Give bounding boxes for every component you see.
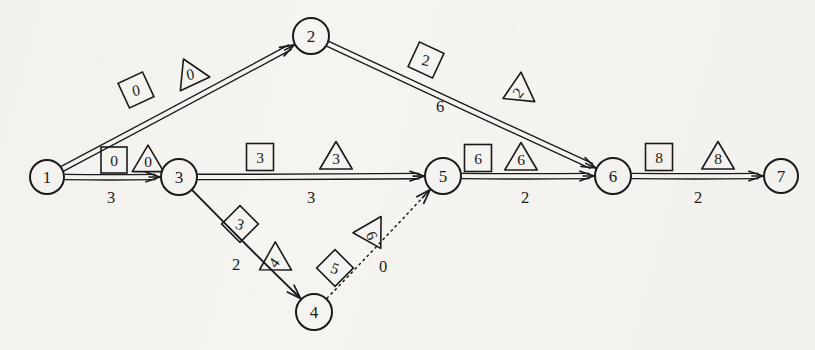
- node-1[interactable]: 1: [30, 160, 64, 194]
- node-6[interactable]: 6: [595, 158, 631, 194]
- label-value-wrap: 6: [517, 151, 525, 168]
- node-label: 1: [43, 168, 52, 187]
- label-value-wrap: 2: [421, 51, 432, 69]
- label-value-wrap: 8: [655, 149, 663, 166]
- label-square-5: 5: [317, 250, 354, 287]
- edge-weight-6-7: 2: [694, 188, 702, 207]
- edge-rail-b: [198, 179, 419, 180]
- label-value: 0: [110, 152, 118, 169]
- edge-3-4: [192, 190, 300, 298]
- network-svg: 363202200002233345666881234567: [0, 0, 815, 350]
- label-triangle-0: 0: [132, 145, 163, 172]
- label-value: 3: [332, 150, 340, 167]
- label-value-wrap: 3: [332, 150, 340, 167]
- label-value: 4: [265, 254, 283, 270]
- edge-weight-1-3: 3: [107, 188, 115, 207]
- label-value: 3: [233, 215, 246, 234]
- label-value: 0: [131, 81, 142, 99]
- node-label: 4: [310, 303, 319, 322]
- label-value-wrap: 2: [509, 84, 527, 101]
- label-value-wrap: 0: [110, 152, 118, 169]
- edge-rail-a: [329, 42, 592, 164]
- edge-rail-b: [327, 46, 590, 168]
- node-label: 2: [307, 27, 316, 46]
- label-value: 3: [256, 149, 264, 166]
- label-value-wrap: 8: [714, 150, 722, 167]
- edge-4-5: [327, 190, 430, 298]
- label-triangle-2: 2: [496, 72, 535, 113]
- label-value-wrap: 4: [265, 254, 283, 270]
- label-square-0: 0: [118, 72, 154, 108]
- label-value: 8: [655, 149, 663, 166]
- label-triangle-8: 8: [702, 142, 734, 169]
- edge-weight-2-6: 6: [436, 97, 444, 116]
- node-label: 5: [439, 167, 448, 186]
- edge-rail-a: [198, 173, 419, 174]
- label-value: 6: [363, 229, 382, 243]
- label-value: 6: [517, 151, 525, 168]
- network-diagram-canvas: 363202200002233345666881234567: [0, 0, 815, 350]
- label-value: 0: [144, 153, 152, 170]
- label-value-wrap: 3: [256, 149, 264, 166]
- node-5[interactable]: 5: [425, 158, 461, 194]
- label-value: 2: [509, 84, 527, 101]
- label-value: 8: [714, 150, 722, 167]
- label-value-wrap: 3: [233, 215, 246, 234]
- label-value: 0: [185, 65, 196, 83]
- node-7[interactable]: 7: [764, 159, 798, 193]
- edge-weight-3-5: 3: [307, 188, 315, 207]
- label-value: 5: [328, 259, 341, 278]
- edge-3-5: [198, 171, 424, 181]
- label-triangle-0: 0: [169, 52, 210, 91]
- label-value: 6: [474, 150, 482, 167]
- label-value-wrap: 6: [474, 150, 482, 167]
- edge-weight-5-6: 2: [521, 188, 529, 207]
- label-triangle-6: 6: [353, 216, 395, 256]
- edge-5-6: [462, 171, 594, 181]
- edge-2-6: [327, 42, 596, 169]
- node-2[interactable]: 2: [293, 18, 329, 54]
- label-value-wrap: 6: [363, 229, 382, 243]
- label-value-wrap: 0: [131, 81, 142, 99]
- edge-line: [192, 190, 296, 294]
- label-square-8: 8: [646, 144, 673, 171]
- label-square-2: 2: [408, 42, 444, 78]
- node-label: 3: [175, 168, 184, 187]
- node-3[interactable]: 3: [161, 159, 197, 195]
- label-square-0: 0: [101, 147, 127, 173]
- node-4[interactable]: 4: [296, 294, 332, 330]
- node-label: 7: [777, 167, 786, 186]
- label-square-3: 3: [247, 144, 274, 171]
- label-value: 2: [421, 51, 432, 69]
- label-value-wrap: 0: [185, 65, 196, 83]
- label-triangle-6: 6: [505, 143, 537, 170]
- label-value-wrap: 0: [144, 153, 152, 170]
- label-triangle-4: 4: [251, 242, 291, 284]
- edge-rail-a: [62, 45, 289, 166]
- edge-weight-4-5: 0: [379, 257, 387, 276]
- label-triangle-3: 3: [320, 142, 352, 169]
- edge-6-7: [632, 171, 763, 181]
- label-value-wrap: 5: [328, 259, 341, 278]
- edge-weight-3-4: 2: [232, 255, 240, 274]
- label-square-3: 3: [222, 206, 259, 243]
- node-label: 6: [609, 167, 618, 186]
- label-square-6: 6: [465, 145, 492, 172]
